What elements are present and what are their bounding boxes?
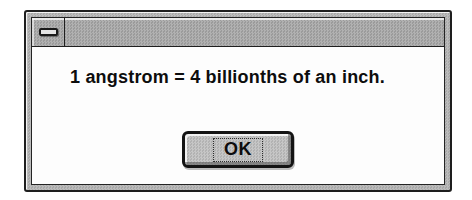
dialog-client-area: 1 angstrom = 4 billionths of an inch. OK <box>32 47 444 184</box>
control-menu-dash-icon <box>39 28 58 36</box>
message-dialog-window: 1 angstrom = 4 billionths of an inch. OK <box>24 10 452 192</box>
dialog-frame: 1 angstrom = 4 billionths of an inch. OK <box>31 17 445 185</box>
window-title <box>65 18 444 46</box>
control-menu-button[interactable] <box>32 18 65 46</box>
ok-button[interactable]: OK <box>182 131 294 168</box>
page-background: 1 angstrom = 4 billionths of an inch. OK <box>0 0 472 200</box>
dialog-message: 1 angstrom = 4 billionths of an inch. <box>70 67 385 88</box>
ok-button-label: OK <box>224 139 252 159</box>
titlebar[interactable] <box>32 18 444 47</box>
ok-button-focus-rect: OK <box>213 138 263 162</box>
